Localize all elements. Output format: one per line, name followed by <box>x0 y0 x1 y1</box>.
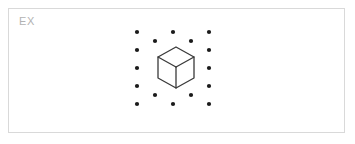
isometric-cube-group <box>158 47 194 88</box>
lattice-dot <box>135 102 139 106</box>
lattice-dot <box>207 102 211 106</box>
dot-lattice-group <box>135 30 211 106</box>
lattice-dot <box>171 30 175 34</box>
cube-outline <box>158 47 194 88</box>
lattice-dot <box>207 30 211 34</box>
lattice-dot <box>207 66 211 70</box>
example-card: EX <box>8 8 345 133</box>
example-card-label: EX <box>19 15 35 28</box>
cube-lattice-svg <box>9 9 346 134</box>
lattice-dot <box>135 66 139 70</box>
cube-inner-edge <box>158 57 176 67</box>
cube-lattice-figure <box>9 9 346 134</box>
lattice-dot <box>153 93 157 97</box>
lattice-dot <box>153 39 157 43</box>
lattice-dot <box>189 93 193 97</box>
lattice-dot <box>207 48 211 52</box>
screenshot-canvas: EX <box>0 0 355 144</box>
lattice-dot <box>135 30 139 34</box>
cube-inner-edge <box>176 57 194 67</box>
lattice-dot <box>135 84 139 88</box>
lattice-dot <box>207 84 211 88</box>
lattice-dot <box>189 39 193 43</box>
lattice-dot <box>171 102 175 106</box>
lattice-dot <box>135 48 139 52</box>
